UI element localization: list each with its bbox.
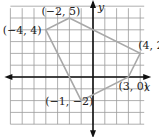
vertex-label: (−2, 5) [41, 5, 80, 18]
axes [4, 0, 151, 137]
vertex-label: (4, 2) [138, 39, 159, 52]
coordinate-plane: (−2, 5)(4, 2)(3, 0)(−1, −2)(−4, 4) x y [0, 0, 159, 137]
y-axis-label: y [97, 1, 105, 14]
vertex-label: (−1, −2) [45, 95, 93, 108]
x-axis-label: x [144, 81, 151, 94]
vertex-label: (−4, 4) [3, 24, 42, 37]
